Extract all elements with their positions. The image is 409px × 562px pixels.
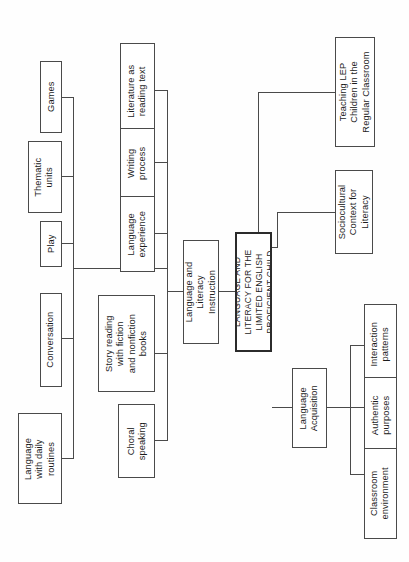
edge-instruction-to-language-exp bbox=[155, 233, 168, 234]
edge-root-to-instruction bbox=[219, 291, 235, 292]
node-sociocultural-context[interactable]: Sociocultural Context for Literacy bbox=[335, 170, 373, 254]
node-writing-process[interactable]: Writing process bbox=[120, 128, 155, 198]
edge-instruction-to-literature bbox=[155, 90, 168, 91]
node-interaction-patterns-label: Interaction patterns bbox=[369, 322, 392, 367]
node-classroom-environment[interactable]: Classroom environment bbox=[364, 448, 397, 539]
node-teaching-lep[interactable]: Teaching LEP Children in the Regular Cla… bbox=[335, 37, 375, 147]
edge-sociocultural-stub-v bbox=[277, 212, 278, 248]
edge-acquisition-to-classroom bbox=[350, 474, 364, 475]
edge-oral-to-play bbox=[61, 243, 74, 244]
edge-root-to-acquisition bbox=[272, 407, 292, 408]
edge-oral-to-games bbox=[61, 97, 74, 98]
edge-instruction-stem bbox=[167, 291, 183, 292]
edge-instruction-to-writing bbox=[155, 162, 168, 163]
node-language-experience-label: Language experience bbox=[126, 211, 149, 257]
node-conversation-label: Conversation bbox=[45, 312, 56, 368]
node-story-reading[interactable]: Story reading with fiction and nonfictio… bbox=[98, 295, 155, 392]
node-language-experience[interactable]: Language experience bbox=[120, 196, 155, 272]
edge-oral-bus bbox=[73, 97, 74, 459]
node-games-label: Games bbox=[45, 82, 56, 112]
edge-acquisition-bus bbox=[350, 345, 351, 475]
node-choral-speaking[interactable]: Choral speaking bbox=[118, 404, 155, 478]
node-literature-as-reading-text[interactable]: Literature as reading text bbox=[120, 43, 155, 139]
node-sociocultural-context-label: Sociocultural Context for Literacy bbox=[337, 185, 371, 240]
node-language-acquisition[interactable]: Language Acquisition bbox=[292, 368, 327, 448]
node-literature-as-reading-text-label: Literature as reading text bbox=[126, 65, 149, 118]
edge-oral-to-thematic bbox=[61, 176, 74, 177]
edge-instruction-to-story-reading bbox=[155, 353, 168, 354]
diagram-canvas: LANGUAGE AND LITERACY FOR THE LIMITED EN… bbox=[0, 0, 409, 562]
node-root-label: LANGUAGE AND LITERACY FOR THE LIMITED EN… bbox=[235, 249, 272, 334]
edge-oral-to-conversation bbox=[61, 338, 74, 339]
node-classroom-environment-label: Classroom environment bbox=[369, 467, 392, 519]
node-games[interactable]: Games bbox=[40, 61, 62, 133]
node-authentic-purposes[interactable]: Authentic purposes bbox=[364, 377, 397, 453]
node-teaching-lep-label: Teaching LEP Children in the Regular Cla… bbox=[338, 51, 372, 132]
edge-acquisition-to-authentic bbox=[350, 407, 364, 408]
node-interaction-patterns[interactable]: Interaction patterns bbox=[364, 304, 397, 384]
node-root[interactable]: LANGUAGE AND LITERACY FOR THE LIMITED EN… bbox=[235, 232, 272, 352]
node-language-literacy-instruction[interactable]: Language and Literacy Instruction bbox=[183, 240, 219, 344]
edge-oral-to-routines bbox=[61, 458, 74, 459]
node-writing-process-label: Writing process bbox=[126, 146, 149, 179]
node-language-with-daily-routines[interactable]: Language with daily routines bbox=[18, 413, 62, 504]
node-play-label: Play bbox=[45, 235, 56, 254]
node-thematic-units-label: Thematic units bbox=[34, 157, 57, 196]
node-thematic-units[interactable]: Thematic units bbox=[28, 141, 62, 213]
node-choral-speaking-label: Choral speaking bbox=[125, 422, 148, 460]
edge-trunk-to-teaching-lep bbox=[258, 92, 335, 93]
node-play[interactable]: Play bbox=[40, 221, 62, 267]
edge-instruction-to-choral bbox=[155, 440, 168, 441]
edge-trunk-to-sociocultural-b bbox=[277, 212, 335, 213]
node-authentic-purposes-label: Authentic purposes bbox=[369, 395, 392, 435]
node-language-acquisition-label: Language Acquisition bbox=[298, 385, 321, 431]
node-conversation[interactable]: Conversation bbox=[40, 293, 62, 387]
node-language-literacy-instruction-label: Language and Literacy Instruction bbox=[184, 262, 218, 323]
node-story-reading-label: Story reading with fiction and nonfictio… bbox=[104, 314, 149, 373]
edge-acquisition-stem bbox=[327, 407, 351, 408]
node-language-with-daily-routines-label: Language with daily routines bbox=[23, 437, 57, 479]
edge-instruction-bus bbox=[167, 90, 168, 440]
edge-acquisition-to-interaction bbox=[350, 345, 364, 346]
